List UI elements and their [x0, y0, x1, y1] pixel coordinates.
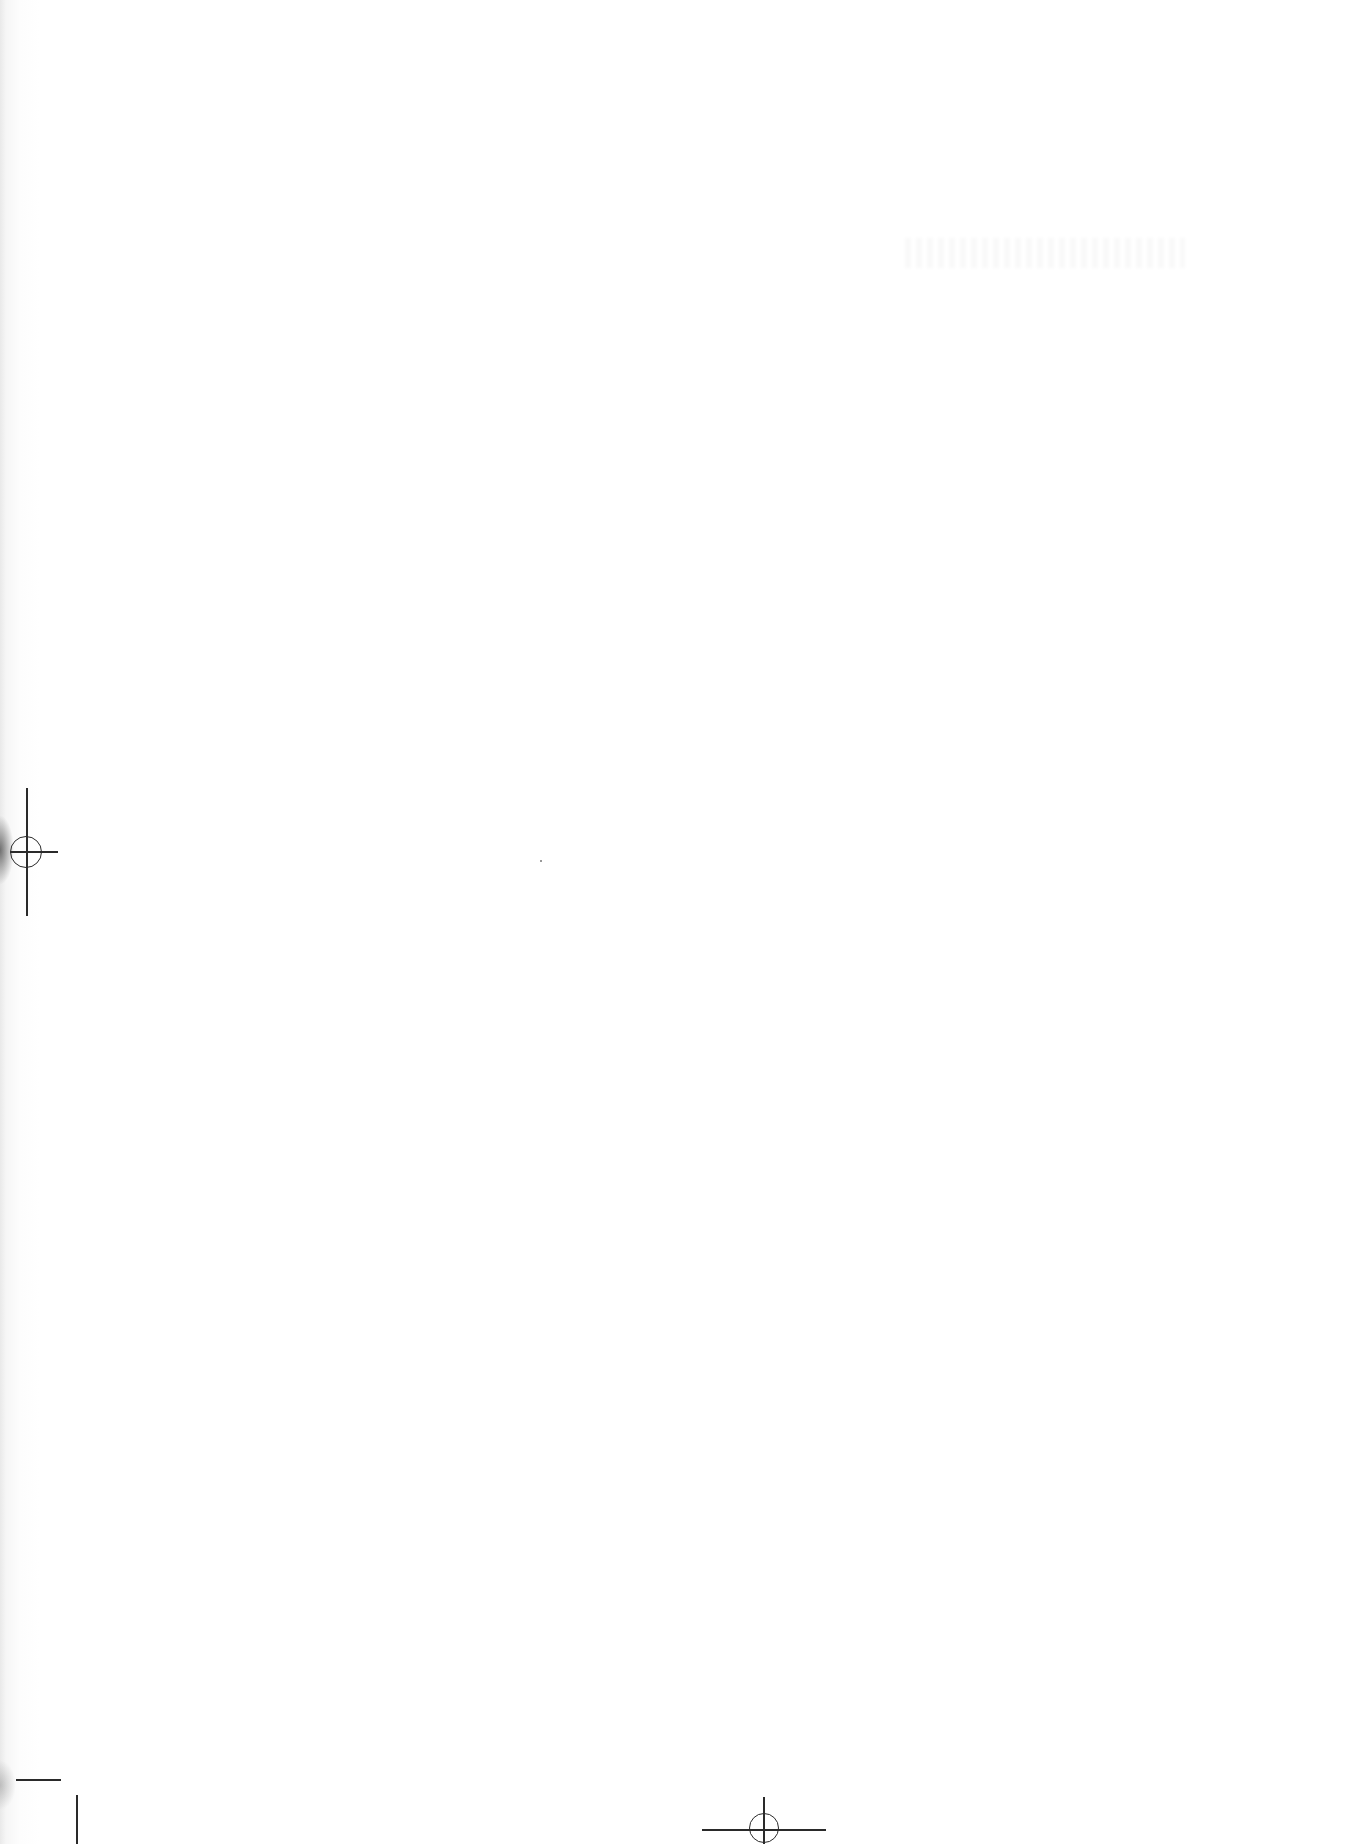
- blank-page: [0, 0, 1345, 1844]
- scan-shadow-bottom: [0, 1760, 16, 1810]
- speck: [540, 860, 542, 862]
- faint-bleed-through-text: [905, 238, 1185, 268]
